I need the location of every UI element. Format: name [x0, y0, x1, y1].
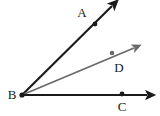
- point-dot-a: [93, 22, 98, 27]
- vertex-label-b: B: [8, 88, 17, 101]
- ray-ba: [22, 6, 112, 95]
- point-dot-c: [120, 92, 125, 97]
- vertex-dot-b: [19, 92, 24, 97]
- point-label-a: A: [77, 6, 86, 19]
- point-label-c: C: [118, 100, 127, 113]
- point-dot-d: [110, 51, 115, 56]
- point-label-d: D: [114, 61, 123, 74]
- angle-diagram-figure: A B C D: [0, 0, 160, 116]
